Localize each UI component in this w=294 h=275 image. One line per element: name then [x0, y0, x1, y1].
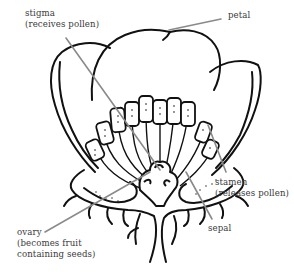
stamen-note: (releases pollen) [215, 188, 289, 199]
ovary-leader [45, 172, 150, 232]
ovary-note-2: containing seeds) [17, 249, 95, 260]
stamen-title: stamen [215, 177, 289, 188]
stigma-title: stigma [25, 8, 99, 19]
ovary-note-1: (becomes fruit [17, 238, 95, 249]
ovary-label: ovary (becomes fruit containing seeds) [17, 227, 95, 260]
sepal-leader [186, 172, 212, 219]
petal-label: petal [228, 10, 250, 21]
sepal-title: sepal [208, 223, 231, 234]
stigma-label: stigma (receives pollen) [25, 8, 99, 30]
ovary-title: ovary [17, 227, 95, 238]
stigma-note: (receives pollen) [25, 19, 99, 30]
stamen-label: stamen (releases pollen) [215, 177, 289, 199]
flower-diagram: stigma (receives pollen) petal stamen (r… [0, 0, 294, 275]
petal-title: petal [228, 10, 250, 21]
petal-center [92, 30, 220, 100]
petal-leader [169, 19, 221, 30]
sepal-label: sepal [208, 223, 231, 234]
